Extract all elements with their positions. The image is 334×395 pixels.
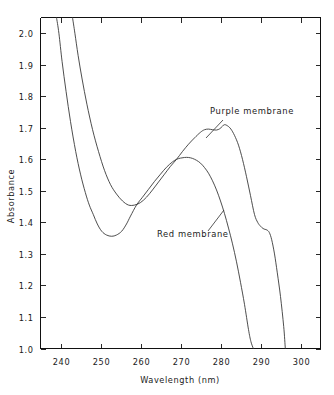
leader-line-red-membrane (208, 210, 224, 231)
y-tick-label: 1.3 (19, 250, 34, 260)
series-curve-purple-membrane (73, 18, 286, 349)
y-tick-label: 1.8 (19, 92, 34, 102)
y-axis-title: Absorbance (6, 169, 16, 223)
x-axis-title: Wavelength (nm) (140, 375, 220, 385)
annotation-leader-lines (206, 120, 224, 231)
chart-canvas: 1.01.11.21.31.41.51.61.71.81.92.0 240250… (0, 0, 334, 395)
y-tick-label: 1.0 (19, 345, 34, 355)
x-axis-ticks (62, 344, 302, 349)
y-tick-label: 1.4 (19, 218, 34, 228)
absorbance-spectrum-figure: 1.01.11.21.31.41.51.61.71.81.92.0 240250… (0, 0, 334, 395)
data-series-group (57, 18, 286, 349)
y-tick-label: 1.6 (19, 155, 34, 165)
y-tick-label: 1.7 (19, 124, 34, 134)
x-tick-label: 250 (93, 357, 110, 367)
x-tick-label: 260 (133, 357, 150, 367)
y-axis-tick-labels: 1.01.11.21.31.41.51.61.71.81.92.0 (19, 29, 34, 355)
y-axis-ticks (41, 34, 46, 350)
right-axis-ticks (316, 34, 321, 350)
y-tick-label: 1.2 (19, 281, 34, 291)
series-label-red-membrane: Red membrane (157, 229, 229, 239)
series-label-purple-membrane: Purple membrane (210, 106, 294, 116)
y-tick-label: 1.1 (19, 313, 34, 323)
x-tick-label: 290 (253, 357, 270, 367)
top-axis-ticks (62, 18, 302, 23)
y-tick-label: 1.5 (19, 187, 34, 197)
annotation-labels: Purple membraneRed membrane (157, 106, 294, 239)
y-tick-label: 2.0 (19, 29, 34, 39)
y-tick-label: 1.9 (19, 61, 34, 71)
series-curve-red-membrane (57, 18, 254, 349)
x-axis-tick-labels: 240250260270280290300 (53, 357, 310, 367)
x-tick-label: 300 (293, 357, 310, 367)
x-tick-label: 280 (213, 357, 230, 367)
x-tick-label: 270 (173, 357, 190, 367)
x-tick-label: 240 (53, 357, 70, 367)
